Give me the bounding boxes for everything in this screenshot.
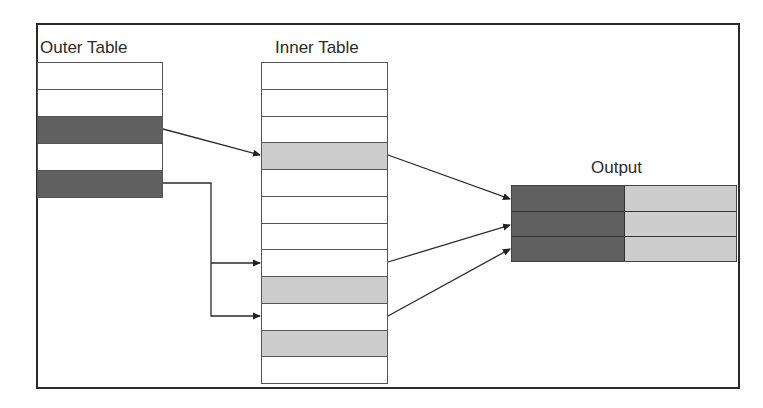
arrow-inner11-output3 bbox=[388, 249, 510, 316]
arrow-inner9-output2 bbox=[388, 225, 510, 262]
arrow-outer3-inner4 bbox=[163, 129, 260, 155]
join-arrows bbox=[0, 0, 763, 408]
arrow-outer5-inner11 bbox=[163, 183, 260, 316]
arrow-inner4-output1 bbox=[388, 155, 510, 199]
